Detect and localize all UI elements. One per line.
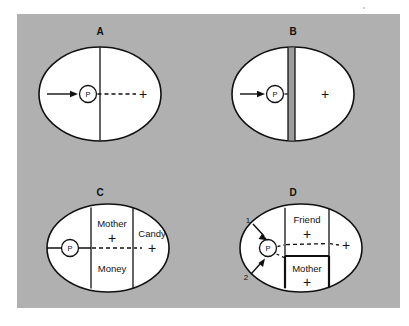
panel-d-letter: D	[289, 187, 296, 198]
figure-root: A P + B	[0, 0, 409, 326]
panel-c-letter: C	[96, 187, 103, 198]
panel-d-region-label-mother: Mother	[292, 263, 322, 274]
panel-a-letter: A	[96, 26, 103, 37]
figure-diagram: A P + B	[0, 0, 409, 326]
panel-a-person-label: P	[85, 90, 90, 99]
registration-mark	[363, 7, 365, 9]
panel-a-goal-sign: +	[139, 86, 147, 102]
panel-c-region-label-money: Money	[98, 263, 127, 274]
panel-c-person-label: P	[67, 244, 72, 253]
panel-b-person-label: P	[272, 90, 277, 99]
panel-c-region-label-mother: Mother	[97, 218, 127, 229]
panel-c-region-sign-mother: +	[108, 230, 116, 246]
panel-d-region-sign-mother: +	[303, 274, 311, 290]
panel-c-region-label-candy: Candy	[138, 228, 166, 239]
panel-d-force-label-2: 2	[244, 273, 249, 282]
panel-d-goal-sign: +	[342, 237, 350, 253]
panel-d-region-label-friend: Friend	[294, 214, 321, 225]
panel-d-force-label-1: 1	[246, 216, 251, 225]
panel-b-letter: B	[289, 26, 296, 37]
panel-c-region-sign-candy: +	[148, 240, 156, 256]
panel-d-person-label: P	[265, 244, 270, 253]
panel-b-barrier-fill	[288, 48, 295, 141]
panel-d-region-sign-friend: +	[303, 226, 311, 242]
panel-b-goal-sign: +	[321, 86, 329, 102]
